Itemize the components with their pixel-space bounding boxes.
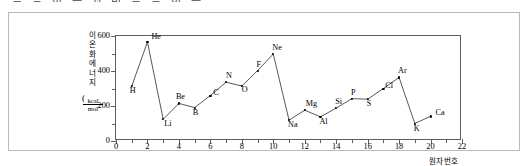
x-tick-5 xyxy=(195,139,196,143)
y-tick-100 xyxy=(112,124,116,125)
point-label-Ne: Ne xyxy=(272,44,282,52)
point-label-Si: Si xyxy=(335,98,342,106)
y-tick-300 xyxy=(112,89,116,90)
point-label-S: S xyxy=(367,100,372,108)
x-tick-label-16: 16 xyxy=(363,143,371,151)
x-tick-15 xyxy=(352,139,353,143)
x-tick-label-10: 10 xyxy=(269,143,277,151)
point-label-Mg: Mg xyxy=(306,100,317,108)
x-tick-label-8: 8 xyxy=(240,143,244,151)
x-tick-label-14: 14 xyxy=(332,143,340,151)
x-tick-label-12: 12 xyxy=(301,143,309,151)
point-label-F: F xyxy=(257,61,262,69)
point-label-Na: Na xyxy=(288,121,298,129)
x-tick-1 xyxy=(132,139,133,143)
top-cut-caption: 금 속 이 온 과 비 금 속 이 온 xyxy=(12,0,204,2)
x-tick-19 xyxy=(415,139,416,143)
x-tick-label-2: 2 xyxy=(145,143,149,151)
x-tick-17 xyxy=(383,139,384,143)
y-tick-label-400: 400 xyxy=(97,67,110,75)
x-tick-3 xyxy=(163,139,164,143)
point-label-O: O xyxy=(242,86,248,94)
point-label-C: C xyxy=(213,89,218,97)
y-tick-200 xyxy=(111,106,116,107)
point-label-Ca: Ca xyxy=(436,109,445,117)
x-tick-label-18: 18 xyxy=(395,143,403,151)
x-tick-21 xyxy=(446,139,447,143)
point-label-P: P xyxy=(351,89,356,97)
x-tick-13 xyxy=(320,139,321,143)
y-axis-title-char-1: 온 xyxy=(85,40,100,49)
x-tick-11 xyxy=(289,139,290,143)
point-label-Ar: Ar xyxy=(398,67,407,75)
y-tick-500 xyxy=(112,54,116,55)
point-label-H: H xyxy=(130,87,136,95)
x-tick-7 xyxy=(226,139,227,143)
y-axis-title-char-5: 지 xyxy=(85,78,100,87)
x-axis-title: 원자번호 xyxy=(429,155,458,161)
x-tick-9 xyxy=(258,139,259,143)
x-tick-label-4: 4 xyxy=(177,143,181,151)
y-tick-label-0: 0 xyxy=(106,137,110,145)
y-tick-label-600: 600 xyxy=(97,32,110,40)
y-tick-label-200: 200 xyxy=(97,102,110,110)
x-tick-label-6: 6 xyxy=(208,143,212,151)
point-label-Li: Li xyxy=(164,120,171,128)
x-tick-label-22: 22 xyxy=(458,143,466,151)
point-label-B: B xyxy=(193,109,198,117)
y-tick-600 xyxy=(111,36,116,37)
point-label-He: He xyxy=(151,33,161,41)
plot-area: 02004006000246810121416182022HHeLiBeBCNO… xyxy=(115,35,461,140)
point-label-N: N xyxy=(226,72,232,80)
x-tick-label-20: 20 xyxy=(426,143,434,151)
y-axis-title-char-2: 화 xyxy=(85,50,100,59)
y-tick-400 xyxy=(111,71,116,72)
x-tick-label-0: 0 xyxy=(114,143,118,151)
point-label-Be: Be xyxy=(176,93,185,101)
point-label-K: K xyxy=(414,125,420,133)
point-label-Al: Al xyxy=(319,118,327,126)
point-label-Cl: Cl xyxy=(385,82,393,90)
figure-outer-box: 이온화에너지 ( kcal mol 0200400600024681012141… xyxy=(8,12,520,151)
